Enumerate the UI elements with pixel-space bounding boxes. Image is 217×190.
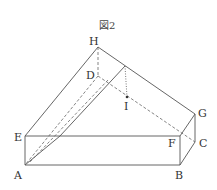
solid-diagram [0, 0, 217, 190]
edge-BC [180, 142, 195, 165]
dotted-perpendicular-I [125, 66, 127, 97]
hidden-edge-DA [25, 76, 98, 165]
cut-edge-lower [25, 136, 60, 165]
label-E: E [14, 132, 22, 143]
label-D: D [86, 70, 95, 81]
hidden-edge-cut-DA [30, 80, 108, 162]
edge-HG [98, 47, 195, 114]
edge-FG [180, 114, 195, 136]
hidden-edge-DC [98, 76, 195, 142]
edge-HE [25, 47, 98, 136]
figure-2: 図2 H D I G F [0, 0, 217, 190]
label-G: G [198, 108, 207, 119]
label-B: B [175, 170, 183, 181]
label-H: H [89, 36, 99, 47]
label-F: F [168, 138, 176, 149]
label-C: C [199, 138, 207, 149]
label-A: A [14, 170, 22, 181]
label-I: I [124, 101, 128, 112]
point-I [126, 96, 129, 99]
